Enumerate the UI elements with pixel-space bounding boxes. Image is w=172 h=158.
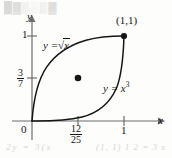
radicand: x [63, 38, 70, 51]
curve-label-sqrt-x: y =√x [43, 38, 70, 51]
curve-cube-exponent: 3 [126, 80, 130, 89]
y-axis-label: y [27, 10, 32, 22]
intersection-point-label: (1,1) [116, 14, 137, 26]
curve-cube-prefix: y = x [103, 82, 126, 94]
figure-container: █▓▒░▒▓ 2y = 3(x (1, 1) 1 2 = 3 x y x 1 0… [0, 0, 172, 158]
x-tick-label-12-25: 12 25 [70, 124, 82, 145]
y-tick-3-7-numerator: 3 [17, 68, 24, 78]
x-tick-12-25-denominator: 25 [70, 134, 82, 145]
x-axis-label: x [158, 114, 163, 126]
y-tick-3-7-denominator: 7 [17, 78, 24, 89]
y-tick-label-1: 1 [22, 28, 28, 40]
intersection-point-dot [121, 33, 127, 39]
y-tick-label-3-7: 3 7 [17, 68, 24, 89]
radical-icon: √x [58, 38, 70, 51]
curve-sqrt-prefix: y = [43, 39, 58, 51]
x-tick-label-1: 1 [121, 124, 127, 136]
origin-label: 0 [21, 123, 27, 135]
x-tick-12-25-numerator: 12 [70, 124, 82, 134]
centroid-point-dot [75, 75, 82, 82]
curve-label-x-cubed: y = x3 [103, 80, 129, 94]
